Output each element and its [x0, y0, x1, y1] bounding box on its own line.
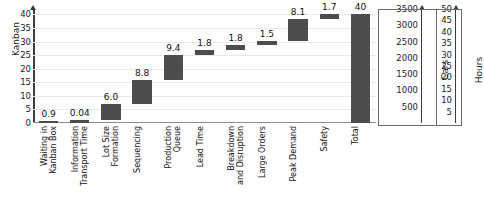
bar-lead-time[interactable]: [195, 50, 214, 55]
bar-value-label: 0.04: [70, 109, 90, 118]
bar-breakdown-and-disruption[interactable]: [226, 45, 245, 50]
category-label-line: Waiting in: [41, 126, 50, 212]
category-label: Total: [352, 126, 368, 212]
gridline: [33, 55, 376, 56]
category-label-line: Safety: [321, 126, 330, 212]
bar-total[interactable]: [351, 14, 370, 123]
category-label: ProductionQueue: [165, 126, 181, 212]
category-label: Lot SizeFormation: [103, 126, 119, 212]
gridline: [33, 69, 376, 70]
gridline: [33, 28, 376, 29]
category-label: Large Orders: [259, 126, 275, 212]
category-label: Safety: [321, 126, 337, 212]
bar-value-label: 40: [355, 3, 366, 12]
y-axis-tick-label: 30: [20, 37, 31, 46]
y-axis-tick-label: 0: [26, 119, 31, 128]
category-label-line: Sequencing: [134, 126, 143, 212]
category-label: Lead Time: [197, 126, 213, 212]
bar-value-label: 8.8: [135, 69, 149, 78]
secondary-axis-frame: [436, 9, 462, 126]
secondary-axis-frame: [378, 9, 437, 126]
secondary-axis-title: Hours: [474, 47, 484, 93]
bar-value-label: 8.1: [291, 8, 305, 17]
y-axis-tick-label: 15: [20, 78, 31, 87]
bar-lot-size-formation[interactable]: [101, 104, 120, 120]
category-label: InformationTransport Time: [72, 126, 88, 212]
y-axis-tick-label: 25: [20, 51, 31, 60]
y-axis-tick-label: 40: [20, 10, 31, 19]
bar-safety[interactable]: [320, 14, 339, 19]
bar-value-label: 1.5: [260, 30, 274, 39]
bar-waiting-in-kanban-box[interactable]: [39, 121, 58, 124]
y-axis-tick-label: 20: [20, 64, 31, 73]
category-label-line: Large Orders: [259, 126, 268, 212]
bar-sequencing[interactable]: [132, 80, 151, 104]
category-label-line: Transport Time: [80, 126, 89, 212]
bar-value-label: 1.7: [322, 3, 336, 12]
gridline: [33, 82, 376, 83]
bar-large-orders[interactable]: [257, 41, 276, 45]
category-label-line: Queue: [174, 126, 183, 212]
plot-area: 05101520253035400.90.046.08.89.41.81.81.…: [33, 9, 376, 123]
bar-value-label: 9.4: [166, 44, 180, 53]
category-label: Peak Demand: [290, 126, 306, 212]
y-axis-tick-label: 5: [26, 105, 31, 114]
bar-information-transport-time[interactable]: [70, 120, 89, 123]
y-axis-tick-label: 35: [20, 24, 31, 33]
bar-peak-demand[interactable]: [288, 19, 307, 41]
bar-production-queue[interactable]: [164, 55, 183, 81]
bar-value-label: 1.8: [229, 34, 243, 43]
category-label-line: Total: [352, 126, 361, 212]
gridline: [33, 96, 376, 97]
bar-value-label: 1.8: [197, 39, 211, 48]
category-label-line: Kanban Box: [49, 126, 58, 212]
category-label: Breakdownand Disruption: [228, 126, 244, 212]
category-label-line: Breakdown: [228, 126, 237, 212]
y-axis-tick-label: 10: [20, 92, 31, 101]
bar-value-label: 0.9: [41, 110, 55, 119]
category-label: Waiting inKanban Box: [41, 126, 57, 212]
category-label: Sequencing: [134, 126, 150, 212]
category-label-line: Peak Demand: [290, 126, 299, 212]
category-label-line: and Disruption: [236, 126, 245, 212]
bar-value-label: 6.0: [104, 93, 118, 102]
category-label-line: Formation: [112, 126, 121, 212]
category-label-line: Lead Time: [197, 126, 206, 212]
